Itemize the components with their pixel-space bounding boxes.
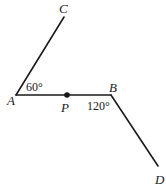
label-c: C [59,1,68,16]
angle-b-label: 120° [87,99,110,113]
label-b: B [109,80,117,95]
segment-bd [111,95,158,166]
angle-a-label: 60° [26,80,43,94]
label-d: D [154,172,165,187]
point-p-dot [64,92,70,98]
label-a: A [6,93,15,108]
geometry-diagram: C A 60° P 120° B D [0,0,166,188]
label-p: P [60,100,69,115]
